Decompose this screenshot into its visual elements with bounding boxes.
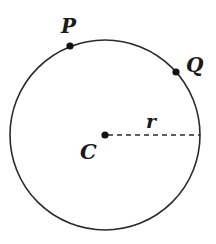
center-c-dot (101, 131, 108, 138)
point-p-label: P (60, 14, 77, 38)
radius-r-label: r (146, 110, 158, 132)
diagram-canvas: P Q C r (0, 0, 216, 244)
point-p-dot (66, 42, 73, 49)
point-q-dot (172, 68, 179, 75)
center-c-label: C (80, 139, 97, 164)
circle-diagram: P Q C r (0, 0, 216, 244)
point-q-label: Q (186, 53, 204, 77)
